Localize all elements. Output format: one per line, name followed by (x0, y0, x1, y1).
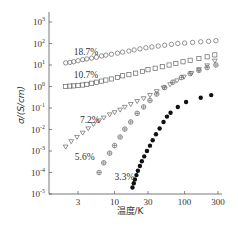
series-3.3% (130, 93, 213, 190)
y-tick-label: 10-4 (31, 167, 45, 178)
y-axis-title: σ/(S/cm) (16, 86, 26, 124)
series-labels: 18.7%10.7%7.2%5.6%3.3% (74, 47, 135, 182)
y-tick-label: 100 (33, 81, 45, 92)
y-tick-label: 10-5 (31, 188, 45, 199)
x-tick-label: 3 (76, 197, 81, 207)
series-label: 5.6% (75, 152, 95, 162)
x-tick-label: 100 (178, 197, 192, 207)
y-tick-label: 10-3 (31, 145, 45, 156)
y-tick-label: 10-2 (31, 124, 45, 135)
x-tick-label: 300 (211, 197, 225, 207)
x-tick-label: 30 (144, 197, 154, 207)
plot-axes (49, 12, 222, 194)
y-tick-label: 10-1 (31, 102, 45, 113)
series-5.6% (97, 63, 218, 175)
conductivity-vs-temperature-chart: 10310210110010-110-210-310-410-531030100… (0, 0, 238, 231)
series-label: 18.7% (74, 47, 99, 57)
series-label: 3.3% (115, 172, 135, 182)
y-tick-label: 101 (33, 59, 45, 70)
x-axis-title: 温度/K (117, 205, 145, 216)
series-label: 10.7% (74, 70, 99, 80)
y-tick-label: 102 (33, 38, 45, 49)
series-label: 7.2% (80, 115, 100, 125)
y-tick-label: 103 (33, 16, 45, 27)
